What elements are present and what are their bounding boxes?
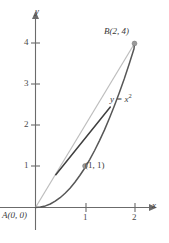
point-label-p: (1, 1) (85, 161, 105, 170)
y-tick-label-4: 4 (24, 38, 29, 47)
y-tick-label-3: 3 (24, 79, 29, 88)
math-figure: y x 1 2 3 4 1 2 B(2, 4) (1, 1) A(0, 0) y… (0, 0, 169, 243)
point-marker-b (132, 41, 137, 46)
y-tick-label-1: 1 (24, 161, 29, 170)
point-label-b-text: B(2, 4) (104, 26, 129, 36)
x-tick-label-1: 1 (83, 213, 88, 222)
curve-equation-exponent: 2 (129, 92, 132, 99)
point-label-a-text: A(0, 0) (2, 210, 27, 220)
y-tick-label-2: 2 (24, 120, 29, 129)
point-label-a: A(0, 0) (2, 211, 27, 220)
secant-line-ab (36, 44, 135, 208)
x-axis-label: x (152, 201, 156, 210)
curve-equation-base: y = x (110, 94, 129, 104)
point-label-b: B(2, 4) (104, 27, 129, 36)
y-axis-label: y (35, 7, 39, 16)
curve-equation-label: y = x2 (110, 95, 132, 104)
x-tick-label-2: 2 (132, 213, 137, 222)
